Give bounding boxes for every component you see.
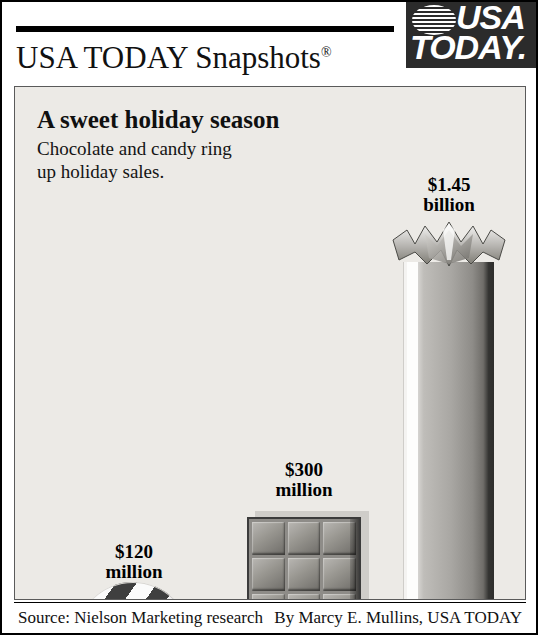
gift-ribbon-icon — [391, 220, 507, 272]
registered-trademark-icon: ® — [321, 45, 332, 60]
candy-cane-shading — [75, 582, 191, 600]
bar-chocolates — [247, 517, 361, 600]
value-label-candy-canes: $120 million — [75, 542, 193, 582]
chocolate-square — [288, 594, 321, 600]
page-title: USA TODAY Snapshots® — [16, 34, 332, 77]
chocolate-square — [288, 522, 321, 555]
logo-line-today: TODAY. — [410, 30, 526, 64]
subheadline: Chocolate and candy ring up holiday sale… — [37, 137, 232, 183]
masthead-rule — [16, 26, 394, 32]
chocolate-square — [252, 594, 285, 600]
usa-today-logo: USA TODAY. — [406, 2, 536, 68]
footer-rule — [14, 602, 526, 603]
chocolate-square — [252, 522, 285, 555]
value-label-line-2: billion — [401, 195, 497, 215]
category-label-line-1: Candy — [81, 599, 187, 600]
chocolate-bar-icon — [249, 519, 359, 600]
chart-panel: A sweet holiday season Chocolate and can… — [14, 86, 526, 600]
chocolate-square — [252, 558, 285, 591]
source-note: Source: Nielson Marketing research — [18, 608, 263, 628]
chocolate-bar-side-face — [350, 519, 359, 600]
page-title-text: USA TODAY Snapshots — [16, 40, 321, 75]
value-label-line-1: $300 — [248, 460, 360, 480]
bar-candy-canes — [75, 582, 191, 600]
value-label-all-candy: $1.45 billion — [401, 175, 497, 215]
headline: A sweet holiday season — [37, 105, 279, 134]
value-label-line-1: $1.45 — [401, 175, 497, 195]
value-label-line-2: million — [75, 562, 193, 582]
bar-all-candy-highlight — [407, 262, 418, 600]
value-label-line-1: $120 — [75, 542, 193, 562]
subheadline-line-2: up holiday sales. — [37, 160, 232, 183]
credit-note: By Marcy E. Mullins, USA TODAY — [274, 608, 522, 628]
snapshot-infographic: USA TODAY Snapshots® USA TODAY. A sweet … — [0, 0, 538, 635]
category-label-candy-canes: Candy canes — [81, 599, 187, 600]
subheadline-line-1: Chocolate and candy ring — [37, 137, 232, 160]
value-label-chocolates: $300 million — [248, 460, 360, 500]
chocolate-square — [288, 558, 321, 591]
value-label-line-2: million — [248, 480, 360, 500]
